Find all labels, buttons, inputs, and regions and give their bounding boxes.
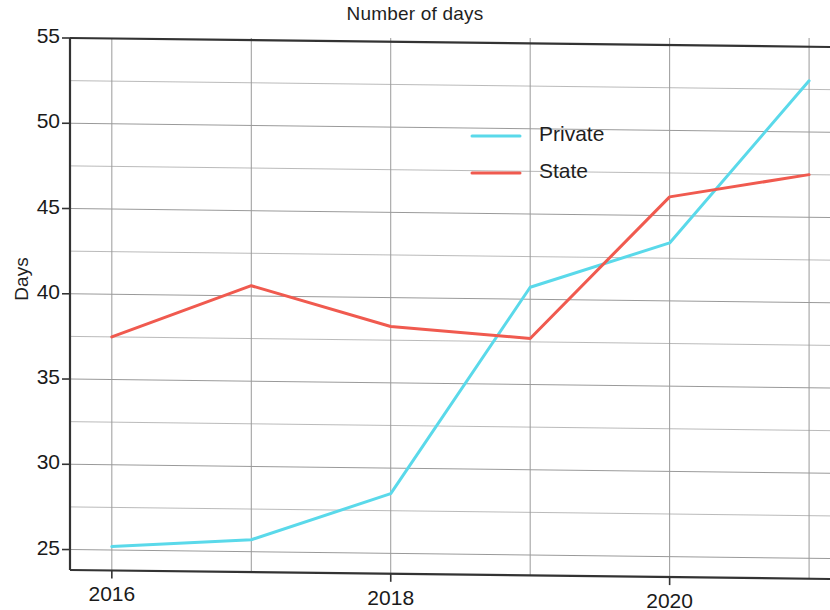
x-tick-label: 2020: [615, 589, 725, 610]
y-tick-label: 30: [14, 450, 60, 474]
y-tick-label: 35: [14, 365, 60, 389]
y-tick-label: 25: [14, 536, 60, 560]
legend-label-private: Private: [539, 122, 604, 146]
series-line-private: [112, 81, 809, 547]
x-tick-label: 2016: [57, 582, 167, 606]
y-tick-label: 55: [14, 24, 60, 48]
x-gridlines: [112, 38, 809, 579]
series-line-state: [112, 175, 809, 339]
legend-label-state: State: [539, 159, 588, 183]
y-tick-label: 45: [14, 195, 60, 219]
legend-swatches: [472, 136, 520, 173]
axis-frame: [70, 38, 830, 579]
y-tick-label: 50: [14, 109, 60, 133]
data-series-lines: [112, 81, 809, 547]
chart-plot-area: [0, 0, 830, 610]
x-tick-label: 2018: [336, 586, 446, 610]
chart-figure: Number of days Days 25303540455055 20162…: [0, 0, 830, 610]
y-tick-label: 40: [14, 280, 60, 304]
